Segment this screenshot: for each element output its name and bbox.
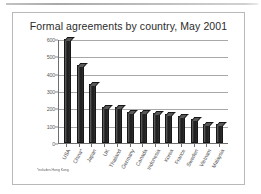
plot-area (58, 40, 228, 144)
bar-slot (213, 40, 226, 143)
bar (102, 107, 109, 143)
chart-plot-wrapper: 0100200300400500600 USAChina*JapanUKThai… (37, 40, 233, 180)
x-axis-labels: USAChina*JapanUKThailandGermanyCanadaInd… (58, 147, 228, 180)
y-tick-label: 400 (47, 72, 55, 78)
x-tick-label: Korea (162, 148, 174, 163)
y-tick-label: 600 (47, 37, 55, 43)
bar-slot (163, 40, 176, 143)
bar-slot (86, 40, 99, 143)
bar (140, 112, 147, 143)
slide-panel: Formal agreements by country, May 2001 0… (12, 12, 245, 185)
bar-slot (175, 40, 188, 143)
bar (178, 116, 185, 143)
bar (191, 119, 198, 143)
x-label-slot: Japan (86, 147, 99, 180)
page-top-divider (6, 3, 258, 5)
bar-slot (112, 40, 125, 143)
x-label-slot: Korea (162, 147, 175, 180)
bar-slot (124, 40, 137, 143)
chart-title: Formal agreements by country, May 2001 (13, 20, 244, 32)
bar-slot (137, 40, 150, 143)
x-tick-label: France (174, 148, 187, 165)
bar-slot (99, 40, 112, 143)
y-tick-label: 200 (47, 106, 55, 112)
bar-series (59, 40, 228, 143)
bar (64, 39, 71, 143)
y-tick-label: 100 (47, 124, 55, 130)
bar (165, 114, 172, 143)
screenshot-page: Formal agreements by country, May 2001 0… (0, 0, 261, 194)
bar-slot (150, 40, 163, 143)
chart-footnote: *includes Hong Kong (37, 168, 69, 172)
bar (89, 84, 96, 143)
bar (127, 112, 134, 143)
bar (77, 65, 84, 143)
x-tick-label: UK (101, 148, 110, 157)
bar-slot (201, 40, 214, 143)
bar-slot (188, 40, 201, 143)
x-label-slot: USA (60, 147, 73, 180)
x-tick-label: Japan (85, 148, 97, 163)
y-tick-label: 300 (47, 89, 55, 95)
y-axis-labels: 0100200300400500600 (37, 40, 58, 144)
bar (153, 113, 160, 143)
y-tick-label: 500 (47, 54, 55, 60)
bar (115, 107, 122, 143)
bar (216, 124, 223, 143)
bar (203, 124, 210, 143)
x-label-slot: Malaysia (213, 147, 226, 180)
x-tick-label: China* (72, 148, 85, 165)
x-tick-label: USA (61, 148, 71, 160)
bar-slot (74, 40, 87, 143)
x-label-slot: China* (73, 147, 86, 180)
bar-slot (61, 40, 74, 143)
x-label-slot: Indonesia (149, 147, 162, 180)
